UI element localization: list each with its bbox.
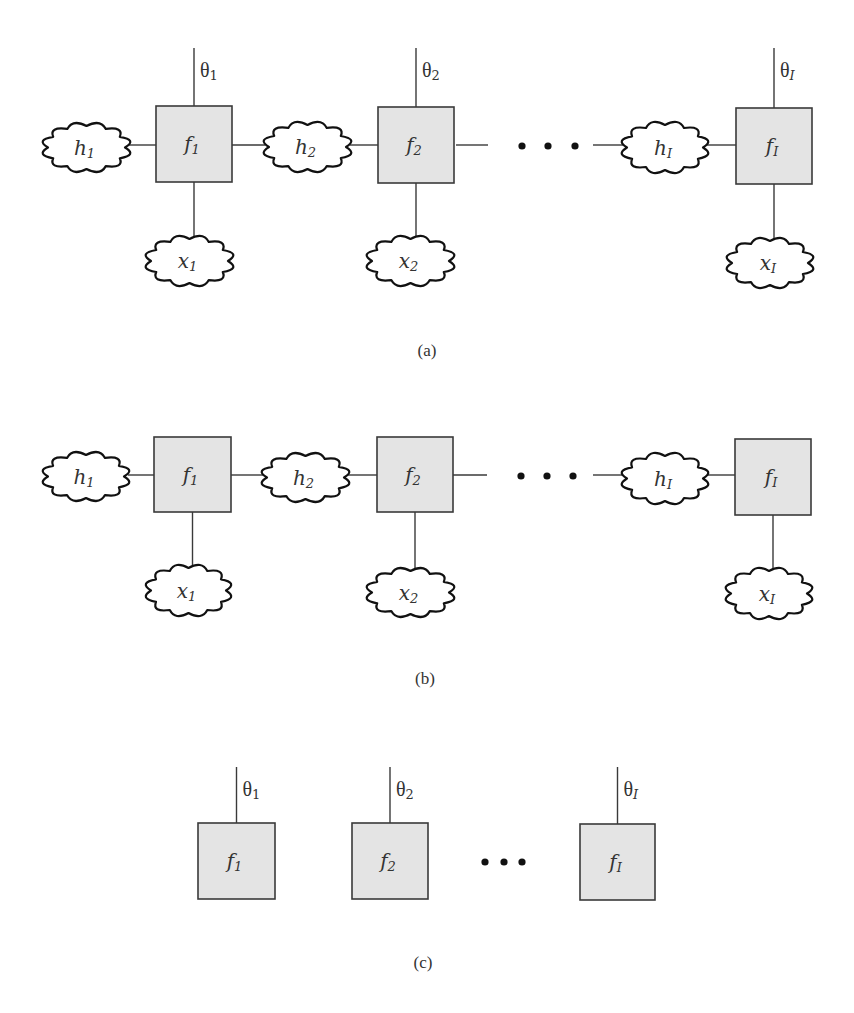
panel-c-factor-1-subscript: 1	[234, 859, 242, 874]
panel-a-caption: (a)	[418, 341, 437, 360]
theta-symbol: θ	[780, 59, 790, 81]
panel-b-h-1-symbol: h	[73, 465, 86, 489]
panel-a-ellipsis-dot-icon	[571, 142, 578, 149]
panel-c-theta-I-label: θI	[624, 778, 640, 802]
panel-b-h-I-symbol: h	[654, 467, 667, 491]
panel-b-factor-I-subscript: I	[771, 475, 778, 490]
panel-a-x-2-symbol: x	[399, 249, 410, 273]
panel-b-h-I-subscript: I	[666, 476, 673, 491]
panel-b-caption: (b)	[415, 669, 435, 688]
panel-a-h-I-symbol: h	[654, 136, 667, 160]
nodes-layer	[43, 106, 814, 900]
theta-symbol: θ	[624, 778, 634, 800]
panel-b-x-1-symbol: x	[177, 579, 188, 603]
panel-a-x-I-symbol: x	[760, 251, 771, 275]
panel-b-x-2-symbol: x	[399, 581, 410, 605]
panel-b-h-2-symbol: h	[293, 466, 306, 490]
panel-b-factor-1-subscript: 1	[190, 472, 198, 487]
theta-subscript: I	[632, 787, 639, 802]
panel-b-x-2-subscript: 2	[409, 590, 418, 605]
panel-b-x-I-subscript: I	[769, 591, 776, 606]
theta-subscript: 1	[210, 68, 218, 83]
panel-a-x-I-subscript: I	[770, 261, 777, 276]
factor-graph-figure: θ1x1f1θ2x2f2θIxIfIh1h2hI(a)x1f1x2f2xIfIh…	[0, 0, 854, 1013]
panel-b-ellipsis-dot-icon	[517, 472, 524, 479]
panel-a-ellipsis-dot-icon	[518, 142, 525, 149]
panel-a-h-2-subscript: 2	[307, 145, 316, 160]
labels-layer: θ1x1f1θ2x2f2θIxIfIh1h2hI(a)x1f1x2f2xIfIh…	[73, 59, 795, 972]
panel-c-ellipsis-dot-icon	[500, 858, 507, 865]
panel-b-x-1-subscript: 1	[188, 588, 196, 603]
panel-c-ellipsis-dot-icon	[481, 858, 488, 865]
theta-subscript: 2	[432, 68, 440, 83]
panel-a-x-1-subscript: 1	[189, 259, 197, 274]
panel-a-h-2-symbol: h	[295, 135, 308, 159]
panel-c-factor-2-subscript: 2	[387, 859, 396, 874]
panel-a-factor-I-subscript: I	[772, 144, 779, 159]
panel-c-caption: (c)	[414, 953, 433, 972]
panel-a-theta-2-label: θ2	[422, 59, 440, 83]
panel-c-ellipsis-dot-icon	[518, 858, 525, 865]
theta-symbol: θ	[243, 778, 253, 800]
theta-subscript: 2	[406, 787, 414, 802]
panel-b-ellipsis-dot-icon	[543, 472, 550, 479]
panel-c-theta-2-label: θ2	[396, 778, 414, 802]
theta-symbol: θ	[396, 778, 406, 800]
panel-a-x-2-subscript: 2	[409, 259, 418, 274]
panel-a-ellipsis-dot-icon	[544, 142, 551, 149]
panel-a-theta-1-label: θ1	[200, 59, 218, 83]
panel-b-h-2-subscript: 2	[305, 475, 314, 490]
panel-b-h-1-subscript: 1	[86, 474, 94, 489]
panel-a-h-1-subscript: 1	[87, 145, 95, 160]
panel-c-factor-I-subscript: I	[616, 860, 623, 875]
panel-b-factor-2-subscript: 2	[412, 472, 421, 487]
panel-a-h-I-subscript: I	[666, 145, 673, 160]
panel-a-x-1-symbol: x	[178, 249, 189, 273]
theta-subscript: I	[789, 68, 796, 83]
panel-a-factor-2-subscript: 2	[413, 143, 422, 158]
theta-symbol: θ	[200, 59, 210, 81]
panel-a-theta-I-label: θI	[780, 59, 796, 83]
panel-b-x-I-symbol: x	[759, 582, 770, 606]
panel-c-theta-1-label: θ1	[243, 778, 261, 802]
theta-symbol: θ	[422, 59, 432, 81]
panel-a-h-1-symbol: h	[74, 136, 87, 160]
panel-b-ellipsis-dot-icon	[569, 472, 576, 479]
panel-a-factor-1-subscript: 1	[192, 142, 200, 157]
theta-subscript: 1	[252, 787, 260, 802]
